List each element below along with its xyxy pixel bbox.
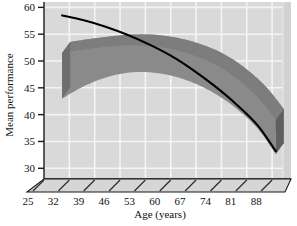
y-axis-title: Mean performance: [3, 53, 15, 136]
x-tick-label: 46: [99, 195, 111, 207]
y-tick-label: 30: [24, 162, 36, 174]
x-tick-label: 25: [23, 195, 35, 207]
x-tick-label: 32: [48, 195, 59, 207]
y-tick-label: 35: [24, 135, 36, 147]
y-tick-label: 55: [24, 28, 36, 40]
panel-right-wall: [283, 2, 291, 179]
x-axis-title: Age (years): [134, 208, 186, 221]
y-tick-label: 40: [24, 109, 36, 121]
x-tick-label: 81: [225, 195, 236, 207]
x-tick-label: 39: [73, 195, 85, 207]
x-tick-label: 88: [251, 195, 263, 207]
y-tick-label: 45: [24, 82, 36, 94]
x-tick-label: 67: [175, 195, 187, 207]
chart-container: 60555045403530 25323946536067748188 Age …: [0, 0, 297, 226]
x-tick-label: 60: [149, 195, 161, 207]
y-tick-label: 50: [24, 55, 36, 67]
mean-performance-age-chart: 60555045403530 25323946536067748188 Age …: [0, 0, 297, 226]
y-tick-label: 60: [24, 1, 36, 13]
x-tick-label: 74: [200, 195, 212, 207]
floor-polygon: [27, 179, 291, 192]
x-tick-label: 53: [124, 195, 136, 207]
axis-floor-plate: [27, 179, 291, 192]
